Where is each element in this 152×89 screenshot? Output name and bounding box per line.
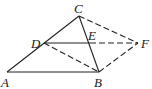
label-A: A [0, 75, 9, 89]
segment-BF [99, 43, 138, 72]
label-E: E [87, 28, 96, 43]
label-F: F [140, 36, 150, 51]
segment-CB [79, 16, 99, 72]
segment-AC [7, 16, 79, 72]
label-C: C [74, 1, 83, 16]
label-D: D [30, 36, 41, 51]
geometry-figure: A B C D E F [0, 0, 152, 89]
label-B: B [94, 75, 102, 89]
